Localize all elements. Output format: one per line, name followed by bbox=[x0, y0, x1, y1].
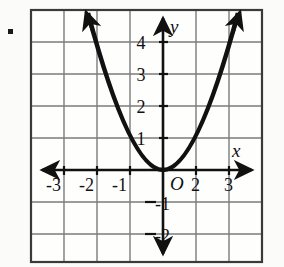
coordinate-plane: x y O -3 -2 -1 2 3 4 3 2 1 -1 -2 bbox=[0, 0, 284, 267]
y-tick-label-2: 2 bbox=[137, 97, 146, 117]
y-tick-label-4: 4 bbox=[137, 33, 146, 53]
y-tick-label-3: 3 bbox=[137, 65, 146, 85]
x-tick-label-neg1: -1 bbox=[112, 175, 127, 195]
y-tick-label-neg2: -2 bbox=[155, 226, 170, 246]
graph-figure: x y O -3 -2 -1 2 3 4 3 2 1 -1 -2 bbox=[0, 0, 284, 267]
y-tick-label-1: 1 bbox=[137, 129, 146, 149]
x-tick-label-2: 2 bbox=[191, 175, 200, 195]
bullet-marker bbox=[8, 29, 13, 34]
origin-label: O bbox=[170, 173, 184, 194]
x-tick-label-neg3: -3 bbox=[46, 175, 61, 195]
y-axis-label: y bbox=[168, 16, 179, 37]
x-tick-label-neg2: -2 bbox=[79, 175, 94, 195]
y-tick-label-neg1: -1 bbox=[155, 194, 170, 214]
x-axis-label: x bbox=[231, 140, 241, 161]
x-tick-label-3: 3 bbox=[224, 175, 233, 195]
